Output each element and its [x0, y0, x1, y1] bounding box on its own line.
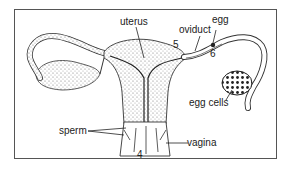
label-sperm: sperm [59, 126, 87, 136]
uterus-body [104, 39, 186, 124]
vagina [120, 122, 170, 156]
label-vagina: vagina [187, 138, 216, 148]
label-number-6: 6 [210, 49, 216, 59]
label-uterus: uterus [120, 17, 148, 27]
label-egg-cells: egg cells [189, 98, 228, 108]
label-number-5: 5 [173, 40, 179, 50]
label-oviduct: oviduct [179, 25, 211, 35]
label-egg: egg [212, 15, 229, 25]
left-ovary [36, 61, 100, 91]
label-number-4: 4 [137, 150, 143, 160]
egg-dot [211, 43, 215, 47]
right-ovary-egg-cells [222, 71, 252, 95]
